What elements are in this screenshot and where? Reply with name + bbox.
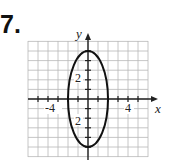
y-tick-label-neg2: 2 [75,114,81,128]
x-axis-label: x [154,101,161,116]
x-tick-label-neg4: -4 [45,101,55,115]
y-axis-label: y [74,26,82,41]
y-tick-label-2: 2 [75,71,81,85]
x-tick-label-4: 4 [125,101,131,115]
ellipse-graph: -4 4 2 2 x y [0,0,172,164]
y-axis-arrow-icon [85,33,91,40]
